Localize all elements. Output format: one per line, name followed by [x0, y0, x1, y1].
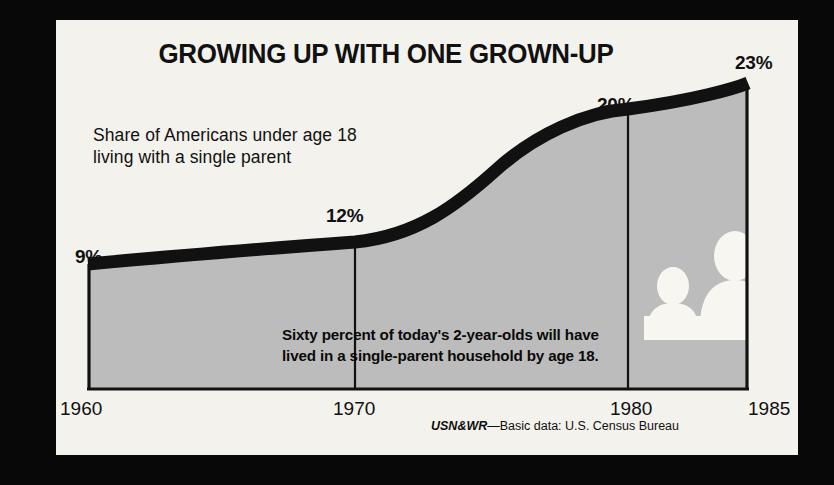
x-axis-label-1970: 1970 — [333, 398, 375, 420]
chart-subtitle-line-1: Share of Americans under age 18 — [93, 124, 357, 146]
source-publication: USN&WR — [431, 419, 487, 433]
x-axis-label-1985: 1985 — [748, 398, 790, 420]
callout-line-2: lived in a single-parent household by ag… — [282, 345, 599, 366]
data-label-1985: 23% — [735, 52, 772, 74]
x-axis-label-1980: 1980 — [610, 398, 652, 420]
data-label-1960: 9% — [75, 246, 102, 268]
data-label-1980: 20% — [597, 94, 634, 116]
source-detail: —Basic data: U.S. Census Bureau — [487, 419, 679, 433]
x-axis-label-1960: 1960 — [60, 398, 102, 420]
callout-line-1: Sixty percent of today's 2-year-olds wil… — [282, 324, 599, 345]
chart-panel: GROWING UP WITH ONE GROWN-UP Share of Am… — [56, 20, 798, 455]
chart-callout-annotation: Sixty percent of today's 2-year-olds wil… — [282, 324, 599, 367]
chart-figure: GROWING UP WITH ONE GROWN-UP Share of Am… — [0, 0, 834, 485]
chart-subtitle-line-2: living with a single parent — [93, 146, 357, 168]
area-chart-plot — [56, 20, 798, 455]
chart-title: GROWING UP WITH ONE GROWN-UP — [69, 39, 703, 70]
chart-subtitle: Share of Americans under age 18 living w… — [93, 124, 357, 169]
data-label-1970: 12% — [326, 205, 363, 227]
source-attribution: USN&WR—Basic data: U.S. Census Bureau — [431, 419, 679, 433]
